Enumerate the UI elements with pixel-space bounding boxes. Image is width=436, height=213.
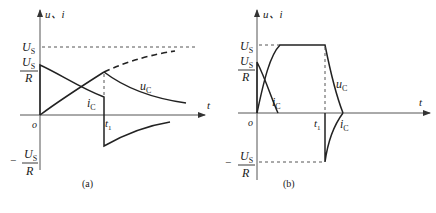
uc-curve-b <box>257 45 343 113</box>
uc-continuation-dashed-a <box>104 51 175 72</box>
svg-text:R: R <box>241 166 250 180</box>
svg-text:R: R <box>24 71 33 85</box>
ic-label-b-2: iC <box>340 117 349 133</box>
caption-a: (a) <box>82 178 93 190</box>
ic-label-a: iC <box>87 96 96 112</box>
origin-label-b: o <box>248 117 253 128</box>
svg-text:−: − <box>10 154 16 166</box>
svg-text:−: − <box>225 156 231 168</box>
svg-text:R: R <box>241 70 250 84</box>
panel-a: u、i t o US US R − US R <box>10 8 211 190</box>
y-axis-label-b: u、i <box>263 8 283 20</box>
svg-text:US: US <box>24 147 37 163</box>
svg-text:US: US <box>22 55 35 71</box>
x-axis-label-a: t <box>207 99 211 111</box>
us-over-r-label-b: US R <box>238 54 255 84</box>
panel-b: u、i t o US US R − US R uC <box>225 8 430 190</box>
t1-label-a: t1 <box>105 117 112 132</box>
rc-transient-figure: u、i t o US US R − US R <box>0 0 436 213</box>
us-over-r-label-a: US R <box>20 55 38 85</box>
svg-text:US: US <box>240 149 253 165</box>
x-axis-label-b: t <box>419 96 423 108</box>
us-label-a: US <box>22 40 35 56</box>
neg-us-over-r-label-b: − US R <box>225 149 255 180</box>
svg-text:R: R <box>25 164 34 178</box>
y-axis-label-a: u、i <box>45 8 65 20</box>
ic-label-b: iC <box>272 95 281 111</box>
us-label-b: US <box>240 39 253 55</box>
t1-label-b: t1 <box>314 117 321 132</box>
uc-label-b: uC <box>336 77 347 93</box>
origin-label-a: o <box>32 119 37 130</box>
neg-us-over-r-label-a: − US R <box>10 147 38 178</box>
svg-text:US: US <box>240 54 253 70</box>
ic-discharging-curve-a <box>104 115 170 146</box>
uc-label-a: uC <box>140 79 151 95</box>
caption-b: (b) <box>283 178 295 190</box>
